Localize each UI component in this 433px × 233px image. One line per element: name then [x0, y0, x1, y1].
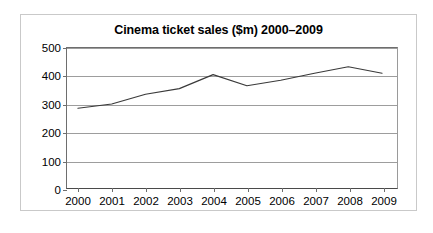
chart-figure: Cinema ticket sales ($m) 2000–2009 500 4… [20, 14, 417, 211]
xtick-mark-2007 [316, 188, 317, 192]
xtick-mark-2006 [282, 188, 283, 192]
plot-area: 500 400 300 200 100 0 2000 2001 2002 200… [66, 47, 398, 189]
xtick-mark-2002 [146, 188, 147, 192]
xtick-label-2005: 2005 [235, 195, 261, 207]
ytick-label-100: 100 [42, 156, 61, 168]
xtick-mark-2000 [78, 188, 79, 192]
xtick-mark-2004 [214, 188, 215, 192]
xtick-label-2003: 2003 [167, 195, 193, 207]
ytick-label-200: 200 [42, 127, 61, 139]
xtick-label-2008: 2008 [337, 195, 363, 207]
ytick-label-500: 500 [42, 42, 61, 54]
xtick-mark-2001 [112, 188, 113, 192]
xtick-label-2001: 2001 [99, 195, 125, 207]
xtick-mark-2003 [180, 188, 181, 192]
series-polyline [78, 67, 382, 109]
xtick-mark-2005 [248, 188, 249, 192]
ytick-mark-0 [63, 190, 67, 191]
xtick-label-2006: 2006 [269, 195, 295, 207]
xtick-label-2000: 2000 [65, 195, 91, 207]
xtick-label-2007: 2007 [303, 195, 329, 207]
series-line-cinema-ticket-sales [67, 48, 397, 188]
xtick-label-2004: 2004 [201, 195, 227, 207]
xtick-mark-2009 [384, 188, 385, 192]
ytick-label-400: 400 [42, 70, 61, 82]
ytick-label-300: 300 [42, 99, 61, 111]
ytick-label-0: 0 [55, 184, 61, 196]
xtick-mark-2008 [350, 188, 351, 192]
chart-title: Cinema ticket sales ($m) 2000–2009 [21, 23, 416, 37]
xtick-label-2002: 2002 [133, 195, 159, 207]
xtick-label-2009: 2009 [371, 195, 397, 207]
